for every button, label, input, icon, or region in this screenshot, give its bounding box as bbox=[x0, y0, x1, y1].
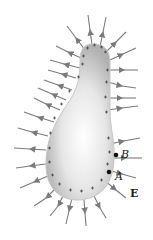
conductor-body bbox=[46, 44, 114, 200]
point-a-dot bbox=[107, 170, 112, 175]
point-a-label: A bbox=[115, 170, 123, 183]
point-b-dot bbox=[114, 153, 119, 158]
point-b-label: B bbox=[121, 148, 129, 161]
field-label: E bbox=[130, 187, 138, 200]
